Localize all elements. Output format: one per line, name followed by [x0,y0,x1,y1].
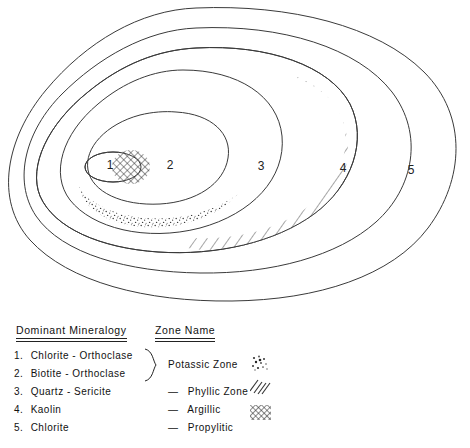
zone-3-4-boundary [37,48,358,253]
row-2-number: 2. [14,368,23,379]
dash-5: — [168,422,179,433]
zone-label-1: 1 [107,158,114,172]
header-mineralogy-underline2 [16,339,127,342]
zone-name-potassic: Potassic Zone [168,359,238,370]
brace-rows-1-2 [143,348,161,382]
table-row: 2. Biotite - Orthoclase [14,368,126,379]
legend-item-bornite: Area of Strongest Bornite-if Present [250,404,470,424]
legend-item-pyrite: Area of Strongest Pyrite [250,379,470,399]
zone-label-3: 3 [258,159,265,173]
crosshatch-swatch-icon [250,404,272,422]
diagram-svg: 1 2 3 4 5 [0,0,470,310]
row-2-mineralogy: Biotite - Orthoclase [31,368,126,379]
table-row: 3. Quartz - Sericite [14,386,111,397]
zone-label-2: 2 [167,158,174,172]
row-3-mineralogy: Quartz - Sericite [31,386,112,397]
hatch-swatch-icon [250,379,272,395]
header-dominant-mineralogy: Dominant Mineralogy [16,324,127,342]
header-zone-underline2 [155,339,215,342]
row-5-number: 5. [14,422,23,433]
row-1-number: 1. [14,350,23,361]
row-4-mineralogy: Kaolin [31,404,62,415]
zone-5-outer-boundary [9,8,456,301]
zone-name-propylitic: — Propylitic [168,422,233,433]
row-1-mineralogy: Chlorite - Orthoclase [31,350,133,361]
zone-name-1-text: Potassic Zone [168,359,238,370]
zone-name-4-text: Argillic [187,404,220,415]
table-row: 4. Kaolin [14,404,61,415]
stipple-swatch-icon [250,354,270,372]
row-5-mineralogy: Chlorite [31,422,69,433]
table-row: 5. Chlorite [14,422,69,433]
zone-4-5-boundary [24,28,411,273]
zone-name-3-text: Phyllic Zone [188,386,248,397]
chalcopyrite-stipple-band [60,70,282,233]
zone-label-4: 4 [340,161,347,175]
dash-4: — [168,404,179,415]
dash-3: — [168,386,179,397]
table-row: 1. Chlorite - Orthoclase [14,350,133,361]
legend-section: Dominant Mineralogy Zone Name 1. Chlorit… [0,312,470,448]
alteration-zoning-diagram: 1 2 3 4 5 [0,0,470,310]
row-3-number: 3. [14,386,23,397]
zone-name-argillic: — Argillic [168,404,221,415]
header-mineralogy-text: Dominant Mineralogy [16,324,127,339]
zone-3-4-boundary-overlay [37,48,358,253]
zone-label-5: 5 [408,163,415,177]
header-zone-text: Zone Name [155,324,215,339]
legend-item-chalcopyrite: Area of Strongest Chalcopyrite [250,354,470,374]
row-4-number: 4. [14,404,23,415]
header-zone-name: Zone Name [155,324,215,342]
zone-name-phyllic: — Phyllic Zone [168,386,248,397]
zone-name-5-text: Propylitic [188,422,234,433]
pyrite-hatch-area [186,61,356,250]
